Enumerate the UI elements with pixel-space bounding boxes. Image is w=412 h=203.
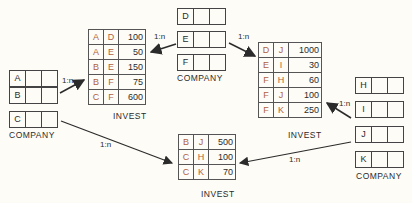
company-row: K (355, 151, 404, 168)
company-label: COMPANY (9, 130, 55, 140)
company-label: COMPANY (177, 73, 223, 83)
company-label: COMPANY (356, 171, 402, 181)
invest-table-bottom: BJ500 CH100 CK70 (178, 134, 236, 180)
table-row: FK250 (259, 103, 322, 118)
cardinality-label: 1:n (100, 140, 111, 149)
cardinality-label: 1:n (339, 99, 350, 108)
table-row: FH60 (259, 73, 322, 88)
table-row: EI30 (259, 58, 322, 73)
company-row: F (177, 54, 226, 71)
invest-table-left: AD100 AE50 BE150 BF75 CF600 (88, 29, 146, 105)
table-row: AE50 (89, 45, 146, 60)
table-row: AD100 (89, 30, 146, 45)
company-row: A (9, 70, 58, 87)
table-row: CF600 (89, 90, 146, 105)
company-row: H (355, 77, 404, 94)
cardinality-label: 1:n (238, 32, 249, 41)
arrow-e-to-invest-left (151, 44, 176, 52)
arrow-e-to-invest-right (229, 43, 255, 56)
table-row: CH100 (179, 150, 236, 165)
company-row: J (355, 126, 404, 143)
arrow-c-to-invest-bottom (61, 121, 172, 163)
table-row: DJ1000 (259, 43, 322, 58)
table-row: BE150 (89, 60, 146, 75)
company-row: C (9, 111, 58, 128)
company-row: E (177, 31, 226, 48)
invest-label: INVEST (113, 111, 147, 121)
invest-label: INVEST (288, 130, 322, 140)
company-row: I (355, 101, 404, 118)
company-row: B (9, 87, 58, 104)
table-row: CK70 (179, 165, 236, 180)
invest-table-right: DJ1000 EI30 FH60 FJ100 FK250 (258, 42, 322, 118)
table-row: FJ100 (259, 88, 322, 103)
table-row: BJ500 (179, 135, 236, 150)
table-row: BF75 (89, 75, 146, 90)
invest-label: INVEST (201, 189, 235, 199)
company-row: D (177, 8, 226, 25)
cardinality-label: 1:n (289, 155, 300, 164)
cardinality-label: 1:n (62, 76, 73, 85)
cardinality-label: 1:n (154, 32, 165, 41)
